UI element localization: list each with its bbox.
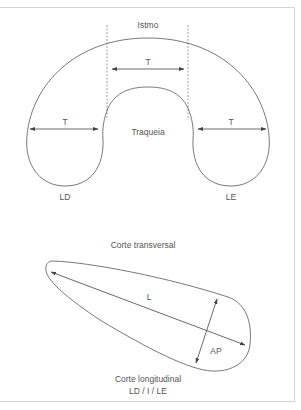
ap-label: AP — [210, 346, 222, 356]
left-lobe-t-label: T — [228, 117, 233, 127]
left-lobe-label: LE — [226, 192, 237, 202]
length-label: L — [147, 292, 152, 302]
right-lobe-label: LD — [60, 192, 71, 202]
isthmus-label: Istmo — [138, 20, 159, 30]
longitudinal-caption-sub: LD / I / LE — [129, 386, 167, 396]
trachea-label: Traqueia — [131, 127, 165, 137]
longitudinal-caption: Corte longitudinal — [115, 374, 181, 384]
right-lobe-t-label: T — [62, 117, 67, 127]
length-arrow — [51, 272, 245, 345]
transverse-caption: Corte transversal — [111, 240, 176, 250]
thyroid-measurement-diagram: Istmo T T T Traqueia LD LE Corte transve… — [0, 0, 301, 410]
isthmus-t-label: T — [145, 57, 150, 67]
